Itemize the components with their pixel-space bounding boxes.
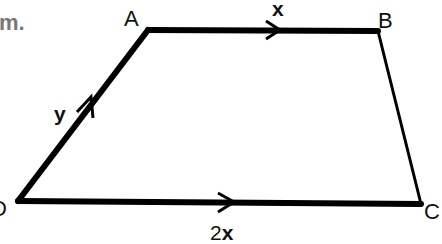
caption-fragment: m.	[0, 12, 25, 34]
vertex-label-b: B	[378, 10, 393, 32]
vertex-label-a: A	[124, 8, 139, 30]
trapezium-diagram	[0, 0, 442, 244]
vector-label-2x-coef: 2	[210, 221, 222, 244]
edge-dc	[18, 201, 421, 204]
vertex-label-d: D	[0, 198, 7, 220]
vector-label-2x: 2x	[210, 222, 233, 243]
vector-label-y: y	[54, 103, 66, 124]
edge-da	[18, 30, 148, 201]
edge-bc	[378, 31, 421, 204]
vector-label-x: x	[272, 0, 284, 19]
vertex-label-c: C	[424, 201, 440, 223]
edge-ab	[148, 30, 378, 31]
vector-label-2x-var: x	[222, 221, 234, 244]
